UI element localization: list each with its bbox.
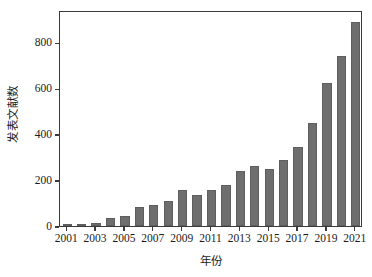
bar — [279, 160, 288, 226]
bar — [207, 190, 216, 226]
y-axis-title: 发表文献数 — [2, 0, 22, 227]
bar — [192, 195, 201, 226]
bar — [308, 123, 317, 226]
bar — [77, 224, 86, 226]
bar-chart-figure: 发表文献数 年份 0200400600800200120032005200720… — [0, 0, 372, 277]
bar — [322, 83, 331, 226]
x-tick-mark — [325, 227, 326, 231]
plot-area — [59, 11, 362, 227]
bar — [337, 56, 346, 226]
x-tick-mark — [181, 227, 182, 231]
x-tick-mark — [354, 227, 355, 231]
x-tick-mark — [66, 227, 67, 231]
x-tick-mark — [152, 227, 153, 231]
bar — [178, 190, 187, 226]
bar — [164, 201, 173, 226]
x-axis-title: 年份 — [59, 252, 362, 268]
y-tick-mark — [55, 226, 59, 227]
x-tick-mark — [296, 227, 297, 231]
y-tick-label: 200 — [12, 175, 52, 187]
x-tick-mark — [268, 227, 269, 231]
bar — [91, 223, 100, 226]
bar — [236, 171, 245, 226]
y-tick-mark — [55, 43, 59, 44]
y-tick-label: 400 — [12, 129, 52, 141]
x-tick-mark — [239, 227, 240, 231]
x-tick-mark — [210, 227, 211, 231]
bar — [221, 185, 230, 226]
bar — [265, 169, 274, 226]
bar — [106, 218, 115, 226]
y-tick-label: 600 — [12, 83, 52, 95]
y-tick-mark — [55, 89, 59, 90]
y-tick-mark — [55, 134, 59, 135]
bar-series — [60, 12, 361, 226]
y-tick-label: 800 — [12, 37, 52, 49]
x-tick-mark — [123, 227, 124, 231]
x-tick-mark — [94, 227, 95, 231]
x-tick-label: 2021 — [335, 232, 372, 245]
bar — [120, 216, 129, 226]
bar — [135, 207, 144, 226]
bar — [351, 22, 360, 227]
bar — [63, 224, 72, 226]
bar — [250, 166, 259, 226]
bar — [293, 147, 302, 227]
y-tick-mark — [55, 180, 59, 181]
y-tick-label: 0 — [12, 221, 52, 233]
bar — [149, 205, 158, 226]
